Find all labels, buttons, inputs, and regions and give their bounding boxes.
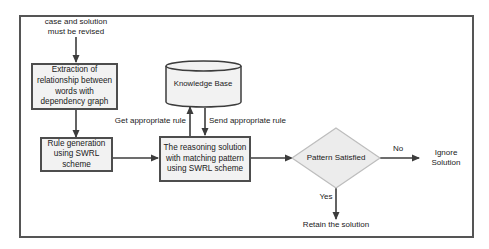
yes-label: Yes: [316, 192, 336, 202]
send-rule-label: Send appropriate rule: [209, 116, 299, 126]
rule-generation-line2: using SWRL: [48, 149, 106, 160]
decision-label: Pattern Satisfied: [296, 153, 376, 162]
rule-generation-box: Rule generation using SWRL scheme: [40, 137, 113, 172]
reasoning-line2: with matching pattern: [164, 154, 247, 165]
rule-generation-line3: scheme: [48, 160, 106, 171]
get-rule-label: Get appropriate rule: [108, 116, 186, 126]
ignore-line1: Ignore: [425, 148, 467, 158]
extraction-box: Extraction of relationship between words…: [31, 63, 118, 110]
start-note-line2: must be revised: [36, 27, 116, 37]
no-label: No: [388, 144, 408, 154]
reasoning-line1: The reasoning solution: [164, 143, 247, 154]
reasoning-box: The reasoning solution with matching pat…: [159, 136, 251, 182]
extraction-line3: words with: [37, 87, 112, 98]
ignore-line2: Solution: [425, 158, 467, 168]
knowledge-base-label: Knowledge Base: [165, 79, 241, 88]
retain-solution-label: Retain the solution: [286, 220, 386, 230]
extraction-line2: relationship between: [37, 76, 112, 87]
extraction-line4: dependency graph: [37, 97, 112, 108]
extraction-line1: Extraction of: [37, 65, 112, 76]
rule-generation-line1: Rule generation: [48, 139, 106, 150]
start-note: case and solution must be revised: [36, 17, 116, 37]
start-note-line1: case and solution: [36, 17, 116, 27]
reasoning-line3: using SWRL scheme: [164, 164, 247, 175]
ignore-solution-label: Ignore Solution: [425, 148, 467, 168]
